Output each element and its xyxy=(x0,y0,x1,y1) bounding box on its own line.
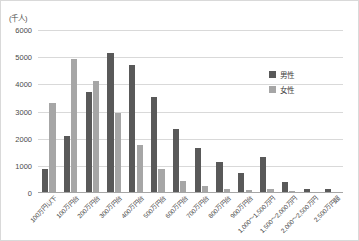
y-axis-tick-label: 1000 xyxy=(15,161,32,170)
bar xyxy=(173,129,179,193)
bar xyxy=(151,97,157,193)
bar-group xyxy=(125,30,147,193)
x-axis-tick-label: 400万円台 xyxy=(119,194,145,220)
bar-group xyxy=(60,30,82,193)
bar-group xyxy=(278,30,300,193)
bar-group xyxy=(212,30,234,193)
x-axis-tick-label: 200万円台 xyxy=(76,194,102,220)
x-axis-tick-labels: 100万円以下100万円台200万円台300万円台400万円台500万円台600… xyxy=(38,194,343,241)
bar xyxy=(216,162,222,193)
x-axis-tick-label: 300万円台 xyxy=(97,194,123,220)
x-axis-tick-label: 100万円以下 xyxy=(28,194,58,224)
legend-label: 女性 xyxy=(280,84,294,95)
x-axis-line xyxy=(38,192,343,193)
bar xyxy=(195,148,201,193)
bar-group xyxy=(169,30,191,193)
bar-group xyxy=(38,30,60,193)
legend-item[interactable]: 男性 xyxy=(269,69,294,80)
bar-group xyxy=(256,30,278,193)
bar xyxy=(107,53,113,193)
bar-group xyxy=(147,30,169,193)
y-axis-tick-label: 4000 xyxy=(15,80,32,89)
y-axis-tick-label: 5000 xyxy=(15,53,32,62)
legend-item[interactable]: 女性 xyxy=(269,84,294,95)
bar xyxy=(115,113,121,193)
bar-group xyxy=(321,30,343,193)
x-axis-tick-label: 700万円台 xyxy=(185,194,211,220)
x-axis-tick-label: 800万円台 xyxy=(206,194,232,220)
bar xyxy=(137,145,143,193)
legend-swatch-icon xyxy=(269,71,276,78)
y-axis-unit-label: (千人) xyxy=(9,12,27,23)
legend-label: 男性 xyxy=(280,69,294,80)
y-axis-tick-label: 2000 xyxy=(15,134,32,143)
x-axis-tick-label: 600万円台 xyxy=(163,194,189,220)
y-axis-tick-labels: 6000500040003000200010000 xyxy=(1,30,34,193)
y-axis-tick-label: 0 xyxy=(28,189,32,198)
bar-group xyxy=(82,30,104,193)
chart-container: (千人) 6000500040003000200010000 100万円以下10… xyxy=(0,0,359,241)
bar xyxy=(238,173,244,193)
bar xyxy=(129,65,135,193)
bar xyxy=(71,59,77,193)
x-axis-tick-label: 500万円台 xyxy=(141,194,167,220)
bar xyxy=(260,157,266,193)
bar xyxy=(93,81,99,193)
legend-swatch-icon xyxy=(269,86,276,93)
bar-group xyxy=(299,30,321,193)
bar xyxy=(49,103,55,193)
bar xyxy=(158,169,164,193)
y-axis-tick-label: 3000 xyxy=(15,107,32,116)
bar xyxy=(64,136,70,193)
chart-legend: 男性女性 xyxy=(269,69,294,99)
bar xyxy=(42,169,48,193)
bar-group xyxy=(191,30,213,193)
plot-area xyxy=(38,30,343,193)
bar-group xyxy=(103,30,125,193)
bar-group xyxy=(234,30,256,193)
y-axis-tick-label: 6000 xyxy=(15,26,32,35)
bar xyxy=(86,92,92,193)
x-axis-tick-label: 100万円台 xyxy=(54,194,80,220)
